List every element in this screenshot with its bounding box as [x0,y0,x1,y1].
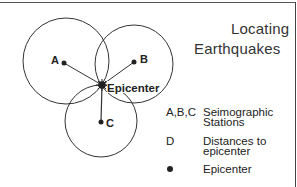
title-line-2: Earthquakes [194,40,280,57]
legend-key-distances: D [166,136,174,146]
legend-desc-stations: Seimographic Stations [203,107,273,127]
legend-desc-stations-line2: Stations [203,117,273,127]
legend-desc-distances-line2: epicenter [203,146,266,156]
station-b-dot [132,60,137,65]
epicenter-label: Epicenter [107,82,160,94]
station-c-dot [99,120,104,125]
diagram-frame: A B C Epicenter Locating Earthquakes A,B… [0,0,297,187]
legend-desc-epicenter-line1: Epicenter [203,164,252,174]
title-line-1: Locating [231,20,289,37]
station-b-label: B [140,53,148,65]
station-a-dot [62,61,67,66]
legend-desc-distances: Distances to epicenter [203,136,266,156]
station-c-label: C [106,117,114,129]
legend-epicenter-bullet-icon [167,166,173,172]
station-a-range-circle [23,18,109,104]
station-a-label: A [51,54,59,66]
legend-key-stations: A,B,C [166,107,196,117]
legend-desc-epicenter: Epicenter [203,164,252,174]
